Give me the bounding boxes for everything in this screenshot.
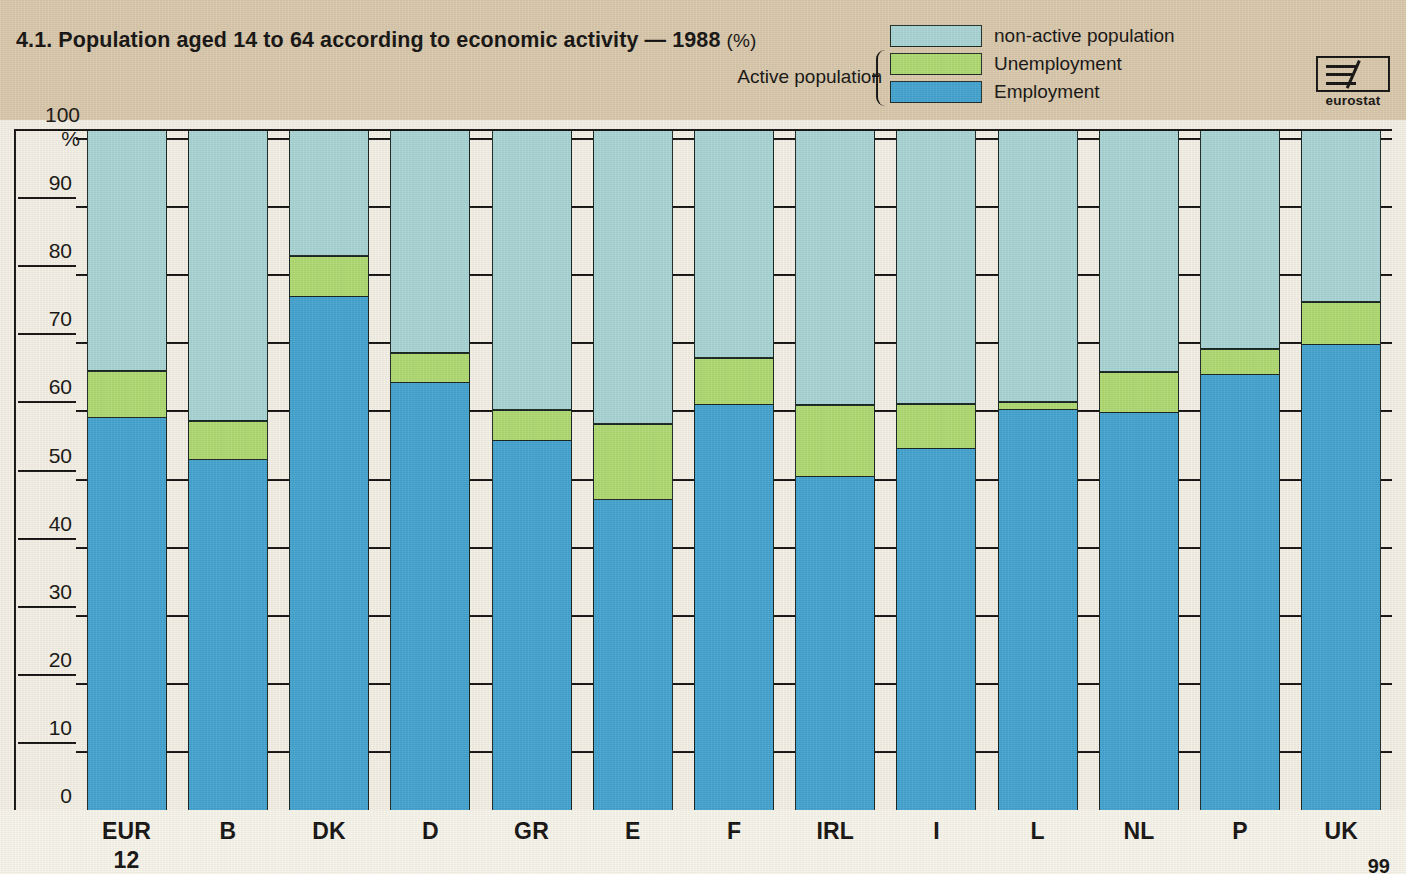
bar-segment-employment[interactable] xyxy=(289,295,369,810)
legend-item-non-active[interactable]: non-active population xyxy=(890,22,1310,50)
bar-segment-unemployment[interactable] xyxy=(593,424,673,500)
bar-segment-employment[interactable] xyxy=(795,475,875,810)
bar-column[interactable] xyxy=(492,129,572,810)
bar-column[interactable] xyxy=(896,129,976,810)
grid-tick xyxy=(1381,206,1392,208)
grid-tick xyxy=(1078,751,1099,753)
legend-item-employment[interactable]: Employment xyxy=(890,78,1310,106)
x-axis-label-line2: 12 xyxy=(67,847,187,874)
bar-column[interactable] xyxy=(390,129,470,810)
bar-segment-unemployment[interactable] xyxy=(289,256,369,297)
grid-tick xyxy=(1078,342,1099,344)
bar-column[interactable] xyxy=(87,129,167,810)
bar-column[interactable] xyxy=(998,129,1078,810)
bar-segment-unemployment[interactable] xyxy=(998,402,1078,410)
bar-segment-employment[interactable] xyxy=(1200,373,1280,810)
grid-tick xyxy=(76,751,87,753)
bar-segment-non-active[interactable] xyxy=(188,129,268,421)
bar-column[interactable] xyxy=(289,129,369,810)
bar-segment-unemployment[interactable] xyxy=(492,410,572,441)
bar-column[interactable] xyxy=(593,129,673,810)
bar-column[interactable] xyxy=(1200,129,1280,810)
bar-segment-non-active[interactable] xyxy=(795,129,875,405)
bar-segment-non-active[interactable] xyxy=(896,129,976,404)
bar-segment-non-active[interactable] xyxy=(1200,129,1280,349)
bar-segment-employment[interactable] xyxy=(390,381,470,810)
bar-column[interactable] xyxy=(1099,129,1179,810)
grid-tick xyxy=(774,274,795,276)
grid-tick xyxy=(1381,138,1392,140)
title-unit: (%) xyxy=(727,30,757,51)
grid-tick xyxy=(167,206,188,208)
grid-tick xyxy=(268,410,289,412)
grid-tick xyxy=(673,547,694,549)
grid-tick xyxy=(572,547,593,549)
grid-tick xyxy=(369,206,390,208)
bar-segment-employment[interactable] xyxy=(1301,343,1381,810)
bar-segment-non-active[interactable] xyxy=(593,129,673,424)
bar-segment-unemployment[interactable] xyxy=(896,404,976,449)
bar-segment-employment[interactable] xyxy=(896,447,976,810)
grid-tick xyxy=(1078,206,1099,208)
grid-tick xyxy=(875,206,896,208)
y-axis: 100 %9080706050403020100 xyxy=(0,120,76,810)
grid-tick xyxy=(369,683,390,685)
y-tick-mark xyxy=(18,197,76,199)
bar-segment-employment[interactable] xyxy=(593,498,673,810)
grid-tick xyxy=(673,615,694,617)
bar-segment-employment[interactable] xyxy=(188,458,268,810)
bar-segment-non-active[interactable] xyxy=(492,129,572,410)
grid-tick xyxy=(76,615,87,617)
bar-segment-unemployment[interactable] xyxy=(694,358,774,405)
grid-tick xyxy=(167,342,188,344)
bar-segment-unemployment[interactable] xyxy=(1099,372,1179,413)
grid-tick xyxy=(470,547,491,549)
grid-tick xyxy=(1179,274,1200,276)
bar-segment-employment[interactable] xyxy=(1099,411,1179,810)
grid-tick xyxy=(268,342,289,344)
bar-segment-non-active[interactable] xyxy=(87,129,167,371)
grid-tick xyxy=(1179,751,1200,753)
bar-segment-employment[interactable] xyxy=(998,408,1078,810)
bar-segment-employment[interactable] xyxy=(492,439,572,810)
bar-segment-non-active[interactable] xyxy=(998,129,1078,402)
grid-tick xyxy=(1078,274,1099,276)
bar-segment-unemployment[interactable] xyxy=(188,421,268,460)
grid-tick xyxy=(1280,751,1301,753)
legend-label-employment: Employment xyxy=(994,81,1100,103)
bar-segment-non-active[interactable] xyxy=(1301,129,1381,302)
grid-tick xyxy=(572,206,593,208)
bar-segment-non-active[interactable] xyxy=(694,129,774,358)
bar-segment-non-active[interactable] xyxy=(390,129,470,353)
bar-column[interactable] xyxy=(188,129,268,810)
bar-segment-non-active[interactable] xyxy=(1099,129,1179,372)
chart-plot-area: 100 %9080706050403020100 xyxy=(0,120,1406,810)
bar-segment-unemployment[interactable] xyxy=(390,353,470,383)
bar-segment-non-active[interactable] xyxy=(289,129,369,256)
grid-tick xyxy=(268,274,289,276)
bar-segment-unemployment[interactable] xyxy=(795,405,875,477)
grid-tick xyxy=(673,479,694,481)
grid-tick xyxy=(1179,615,1200,617)
bar-column[interactable] xyxy=(694,129,774,810)
y-tick-mark xyxy=(18,333,76,335)
grid-tick xyxy=(774,751,795,753)
grid-tick xyxy=(1280,615,1301,617)
bar-column[interactable] xyxy=(795,129,875,810)
bar-segment-employment[interactable] xyxy=(694,403,774,810)
grid-tick xyxy=(1381,547,1392,549)
bar-column[interactable] xyxy=(1301,129,1381,810)
bar-segment-employment[interactable] xyxy=(87,416,167,810)
grid-tick xyxy=(673,274,694,276)
bar-segment-unemployment[interactable] xyxy=(1301,302,1381,345)
grid-tick xyxy=(875,274,896,276)
grid-tick xyxy=(1078,683,1099,685)
bar-segment-unemployment[interactable] xyxy=(1200,349,1280,375)
y-tick-label: 100 % xyxy=(22,103,80,151)
bar-segment-unemployment[interactable] xyxy=(87,371,167,418)
grid-tick xyxy=(673,683,694,685)
legend-swatch-unemployment-icon xyxy=(890,53,982,75)
legend-item-unemployment[interactable]: Unemployment xyxy=(890,50,1310,78)
eurostat-logo: eurostat xyxy=(1316,56,1394,108)
grid-tick xyxy=(470,615,491,617)
